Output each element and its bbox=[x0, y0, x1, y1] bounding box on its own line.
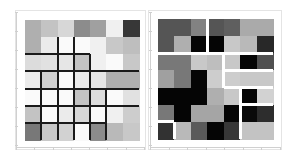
y-tick bbox=[149, 50, 152, 51]
heatmap-cell bbox=[74, 20, 91, 38]
heatmap-cell bbox=[158, 88, 175, 106]
heatmap-cell bbox=[207, 19, 224, 37]
heatmap-cell bbox=[123, 37, 140, 55]
heatmap-cell bbox=[207, 122, 224, 140]
x-tick bbox=[206, 147, 207, 150]
partition-line bbox=[40, 71, 42, 140]
heatmap-cell bbox=[106, 37, 123, 55]
heatmap-cell bbox=[240, 122, 257, 140]
y-tick bbox=[15, 69, 18, 70]
partition-line bbox=[25, 122, 106, 124]
left-heatmap-grid bbox=[25, 20, 139, 140]
x-tick bbox=[224, 147, 225, 150]
left-panel bbox=[0, 0, 146, 158]
y-tick bbox=[15, 12, 18, 13]
heatmap-cell bbox=[58, 20, 75, 38]
partition-line bbox=[105, 89, 107, 140]
heatmap-cell bbox=[191, 122, 208, 140]
x-tick bbox=[169, 147, 170, 150]
y-tick bbox=[149, 126, 152, 127]
heatmap-cell bbox=[207, 105, 224, 123]
heatmap-cell bbox=[90, 20, 107, 38]
heatmap-cell bbox=[257, 105, 274, 123]
heatmap-cell bbox=[174, 19, 191, 37]
heatmap-cell bbox=[191, 105, 208, 123]
x-tick bbox=[34, 147, 35, 150]
tile-gap bbox=[158, 52, 224, 55]
x-tick bbox=[126, 147, 127, 150]
x-tick bbox=[150, 147, 151, 150]
partition-line bbox=[89, 54, 91, 140]
heatmap-cell bbox=[158, 70, 175, 88]
x-tick bbox=[144, 147, 145, 150]
tile-gap bbox=[240, 103, 273, 106]
heatmap-cell bbox=[158, 19, 175, 37]
left-y-axis bbox=[16, 12, 17, 148]
y-tick bbox=[149, 31, 152, 32]
heatmap-cell bbox=[106, 106, 123, 124]
heatmap-cell bbox=[25, 20, 42, 38]
x-tick bbox=[280, 147, 281, 150]
x-tick bbox=[71, 147, 72, 150]
heatmap-cell bbox=[191, 70, 208, 88]
heatmap-cell bbox=[174, 70, 191, 88]
heatmap-cell bbox=[123, 20, 140, 38]
x-tick bbox=[261, 147, 262, 150]
y-tick bbox=[149, 12, 152, 13]
heatmap-cell bbox=[191, 88, 208, 106]
partition-line bbox=[57, 37, 59, 140]
heatmap-cell bbox=[207, 88, 224, 106]
tile-gap bbox=[239, 88, 242, 139]
heatmap-cell bbox=[106, 20, 123, 38]
y-tick bbox=[15, 50, 18, 51]
right-panel bbox=[146, 0, 292, 158]
tile-gap bbox=[224, 69, 273, 72]
y-tick bbox=[15, 145, 18, 146]
heatmap-cell bbox=[240, 105, 257, 123]
heatmap-cell bbox=[257, 19, 274, 37]
x-tick bbox=[187, 147, 188, 150]
y-tick bbox=[15, 31, 18, 32]
x-tick bbox=[53, 147, 54, 150]
tile-gap bbox=[173, 122, 176, 139]
tile-gap bbox=[222, 53, 225, 87]
x-tick bbox=[243, 147, 244, 150]
y-tick bbox=[149, 69, 152, 70]
right-y-axis bbox=[150, 12, 151, 148]
heatmap-cell bbox=[106, 123, 123, 141]
heatmap-cell bbox=[90, 37, 107, 55]
y-tick bbox=[149, 88, 152, 89]
y-tick bbox=[149, 107, 152, 108]
heatmap-cell bbox=[123, 123, 140, 141]
heatmap-cell bbox=[174, 88, 191, 106]
heatmap-cell bbox=[158, 53, 175, 71]
heatmap-cell bbox=[191, 53, 208, 71]
x-tick bbox=[16, 147, 17, 150]
heatmap-cell bbox=[174, 53, 191, 71]
x-tick bbox=[107, 147, 108, 150]
heatmap-cell bbox=[224, 19, 241, 37]
heatmap-cell bbox=[41, 20, 58, 38]
y-tick bbox=[15, 107, 18, 108]
heatmap-cell bbox=[240, 19, 257, 37]
y-tick bbox=[15, 126, 18, 127]
tile-gap bbox=[224, 86, 273, 89]
heatmap-cell bbox=[174, 105, 191, 123]
right-heatmap-grid bbox=[158, 19, 273, 139]
tile-gap bbox=[224, 52, 273, 55]
y-tick bbox=[15, 88, 18, 89]
heatmap-cell bbox=[174, 122, 191, 140]
tile-gap bbox=[206, 19, 209, 53]
heatmap-cell bbox=[257, 122, 274, 140]
x-tick bbox=[89, 147, 90, 150]
partition-line bbox=[73, 37, 75, 140]
y-tick bbox=[149, 145, 152, 146]
heatmap-cell bbox=[123, 106, 140, 124]
